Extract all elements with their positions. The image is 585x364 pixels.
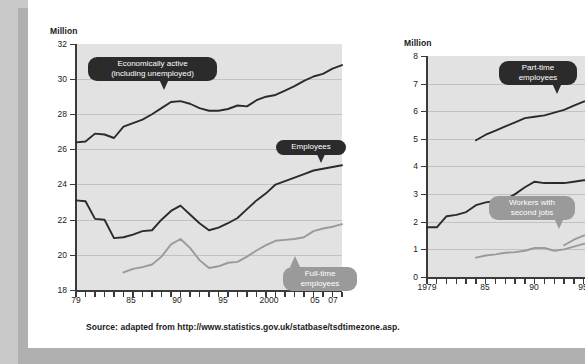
left-annotation-economically-active-tail bbox=[159, 79, 169, 90]
source-note: Source: adapted from http://www.statisti… bbox=[86, 322, 400, 332]
left-annotation-full-time-employees: Full-time employees bbox=[283, 267, 357, 291]
left-annotation-employees-tail bbox=[316, 152, 326, 163]
right-annotation-part-time-employees: Part-time employees bbox=[499, 61, 577, 85]
right-annotation-workers-second-jobs: Workers with second jobs bbox=[489, 196, 575, 220]
chart-left: Million 32 30 28 26 24 22 20 18 bbox=[28, 0, 348, 310]
series-line bbox=[564, 231, 585, 245]
right-annotation-workers-second-jobs-tail bbox=[554, 218, 564, 229]
right-chart-series-layer bbox=[376, 0, 585, 310]
left-annotation-employees: Employees bbox=[276, 140, 346, 155]
left-annotation-full-time-employees-tail bbox=[290, 256, 300, 267]
figure-card: Million 32 30 28 26 24 22 20 18 bbox=[28, 0, 585, 348]
left-chart-series-layer bbox=[28, 0, 348, 310]
series-line bbox=[476, 95, 585, 141]
chart-right: Million 8 7 6 5 4 3 2 1 0 1979 85 bbox=[376, 0, 585, 310]
left-annotation-economically-active: Economically active (including unemploye… bbox=[88, 57, 217, 81]
series-line bbox=[124, 224, 343, 272]
right-annotation-part-time-employees-tail bbox=[552, 83, 562, 94]
series-line bbox=[76, 165, 342, 238]
